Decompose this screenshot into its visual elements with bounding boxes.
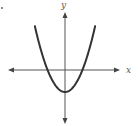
x-axis-label: x [126, 65, 131, 75]
y-axis-bottom-arrow-icon [63, 118, 68, 124]
x-axis-right-arrow-icon [114, 68, 120, 73]
y-axis-label: y [60, 0, 67, 10]
x-axis [8, 68, 120, 73]
x-axis-left-arrow-icon [8, 68, 14, 73]
function-plot: x y [0, 0, 140, 126]
y-axis-top-arrow-icon [63, 12, 68, 18]
y-axis [63, 12, 68, 124]
stray-dot [1, 7, 3, 9]
